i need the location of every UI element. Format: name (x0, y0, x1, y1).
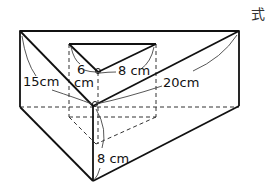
arc-15cm-upper (22, 36, 36, 76)
formula-label: 式 (251, 6, 265, 22)
arc-8cm-height-upper (96, 109, 104, 148)
bottom-left-edge (20, 107, 93, 181)
label-20cm: 20cm (163, 75, 199, 90)
arc-8cm-tail (100, 72, 116, 73)
prism-diagram: 式 15cm 20cm 6 cm (0, 0, 277, 194)
inner-bottom-left (69, 117, 96, 144)
arc-20cm-upper (193, 35, 237, 71)
label-15cm: 15cm (23, 74, 59, 89)
label-8cm-inner: 8 cm (118, 63, 150, 78)
top-right-edge (93, 31, 239, 106)
hidden-edges (20, 44, 239, 144)
arc-6cm-tail (84, 70, 96, 72)
inner-bottom-right (96, 117, 156, 144)
arc-15cm-lower (52, 90, 92, 104)
label-6-unit: cm (74, 75, 94, 90)
label-8cm-height: 8 cm (97, 151, 129, 166)
visible-edges (20, 31, 239, 181)
arc-20cm-lower (96, 86, 162, 104)
